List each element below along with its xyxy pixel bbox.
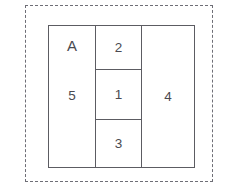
region-label-4: 4 <box>164 90 172 104</box>
region-label-3: 3 <box>115 137 123 151</box>
region-cell-1: 1 <box>96 70 141 120</box>
region-label-1: 1 <box>115 88 123 102</box>
region-right-column: 4 <box>142 26 194 167</box>
region-cell-2: 2 <box>96 26 141 70</box>
region-middle-column: 2 1 3 <box>96 26 142 167</box>
region-left-column: A 5 <box>49 26 96 167</box>
region-cell-3: 3 <box>96 120 141 167</box>
figure-root: A 5 2 1 3 4 <box>0 0 230 191</box>
partition-rectangle: A 5 2 1 3 4 <box>48 25 195 168</box>
region-label-5: 5 <box>49 89 95 103</box>
region-label-2: 2 <box>115 41 123 55</box>
region-group-label-a: A <box>49 38 95 53</box>
